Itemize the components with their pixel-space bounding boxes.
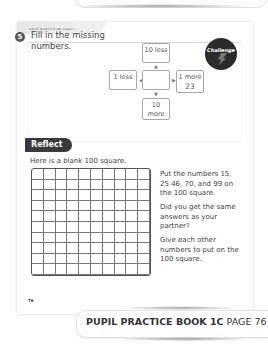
- box-center[interactable]: [142, 70, 170, 90]
- grid-cell[interactable]: [79, 169, 91, 180]
- grid-cell[interactable]: [44, 243, 56, 254]
- grid-cell[interactable]: [91, 211, 103, 222]
- grid-cell[interactable]: [103, 180, 115, 191]
- grid-cell[interactable]: [79, 254, 91, 265]
- grid-cell[interactable]: [44, 190, 56, 201]
- grid-cell[interactable]: [56, 201, 68, 212]
- grid-cell[interactable]: [91, 222, 103, 233]
- grid-cell[interactable]: [32, 169, 44, 180]
- grid-cell[interactable]: [138, 243, 150, 254]
- grid-cell[interactable]: [126, 254, 138, 265]
- grid-cell[interactable]: [138, 254, 150, 265]
- grid-cell[interactable]: [79, 222, 91, 233]
- grid-cell[interactable]: [126, 233, 138, 244]
- grid-cell[interactable]: [79, 233, 91, 244]
- grid-cell[interactable]: [44, 211, 56, 222]
- grid-cell[interactable]: [79, 211, 91, 222]
- grid-cell[interactable]: [32, 254, 44, 265]
- grid-cell[interactable]: [126, 169, 138, 180]
- grid-cell[interactable]: [79, 243, 91, 254]
- grid-cell[interactable]: [56, 169, 68, 180]
- grid-cell[interactable]: [67, 169, 79, 180]
- grid-cell[interactable]: [56, 190, 68, 201]
- grid-cell[interactable]: [91, 243, 103, 254]
- hundred-square-grid[interactable]: [31, 168, 151, 276]
- grid-cell[interactable]: [67, 233, 79, 244]
- grid-cell[interactable]: [91, 233, 103, 244]
- grid-cell[interactable]: [115, 211, 127, 222]
- grid-cell[interactable]: [32, 222, 44, 233]
- box-1-less[interactable]: 1 less: [109, 70, 137, 90]
- grid-cell[interactable]: [79, 201, 91, 212]
- grid-cell[interactable]: [56, 180, 68, 191]
- grid-cell[interactable]: [115, 190, 127, 201]
- grid-cell[interactable]: [138, 180, 150, 191]
- grid-cell[interactable]: [67, 243, 79, 254]
- grid-cell[interactable]: [115, 169, 127, 180]
- grid-cell[interactable]: [56, 211, 68, 222]
- grid-cell[interactable]: [32, 180, 44, 191]
- grid-cell[interactable]: [79, 264, 91, 275]
- grid-cell[interactable]: [91, 201, 103, 212]
- grid-cell[interactable]: [32, 264, 44, 275]
- grid-cell[interactable]: [138, 233, 150, 244]
- grid-cell[interactable]: [44, 264, 56, 275]
- grid-cell[interactable]: [115, 180, 127, 191]
- grid-cell[interactable]: [67, 180, 79, 191]
- grid-cell[interactable]: [44, 180, 56, 191]
- grid-cell[interactable]: [56, 264, 68, 275]
- grid-cell[interactable]: [67, 201, 79, 212]
- grid-cell[interactable]: [103, 211, 115, 222]
- grid-cell[interactable]: [115, 233, 127, 244]
- grid-cell[interactable]: [67, 190, 79, 201]
- grid-cell[interactable]: [79, 190, 91, 201]
- grid-cell[interactable]: [138, 201, 150, 212]
- grid-cell[interactable]: [32, 201, 44, 212]
- grid-cell[interactable]: [115, 222, 127, 233]
- grid-cell[interactable]: [138, 190, 150, 201]
- grid-cell[interactable]: [138, 169, 150, 180]
- grid-cell[interactable]: [103, 254, 115, 265]
- grid-cell[interactable]: [126, 264, 138, 275]
- grid-cell[interactable]: [44, 222, 56, 233]
- grid-cell[interactable]: [44, 201, 56, 212]
- grid-cell[interactable]: [103, 264, 115, 275]
- grid-cell[interactable]: [32, 211, 44, 222]
- grid-cell[interactable]: [67, 264, 79, 275]
- grid-cell[interactable]: [138, 222, 150, 233]
- grid-cell[interactable]: [44, 254, 56, 265]
- grid-cell[interactable]: [126, 180, 138, 191]
- grid-cell[interactable]: [56, 254, 68, 265]
- grid-cell[interactable]: [103, 169, 115, 180]
- grid-cell[interactable]: [67, 222, 79, 233]
- grid-cell[interactable]: [32, 233, 44, 244]
- grid-cell[interactable]: [56, 222, 68, 233]
- grid-cell[interactable]: [91, 180, 103, 191]
- grid-cell[interactable]: [115, 201, 127, 212]
- grid-cell[interactable]: [126, 222, 138, 233]
- grid-cell[interactable]: [32, 243, 44, 254]
- grid-cell[interactable]: [91, 190, 103, 201]
- grid-cell[interactable]: [91, 264, 103, 275]
- grid-cell[interactable]: [103, 222, 115, 233]
- grid-cell[interactable]: [91, 169, 103, 180]
- grid-cell[interactable]: [91, 254, 103, 265]
- grid-cell[interactable]: [126, 201, 138, 212]
- box-10-less[interactable]: 10 less: [142, 43, 170, 63]
- grid-cell[interactable]: [103, 190, 115, 201]
- grid-cell[interactable]: [103, 201, 115, 212]
- grid-cell[interactable]: [138, 211, 150, 222]
- grid-cell[interactable]: [56, 243, 68, 254]
- grid-cell[interactable]: [103, 233, 115, 244]
- grid-cell[interactable]: [56, 233, 68, 244]
- grid-cell[interactable]: [79, 180, 91, 191]
- grid-cell[interactable]: [32, 190, 44, 201]
- grid-cell[interactable]: [115, 254, 127, 265]
- box-10-more[interactable]: 10 more: [142, 98, 170, 120]
- grid-cell[interactable]: [126, 243, 138, 254]
- grid-cell[interactable]: [67, 211, 79, 222]
- box-1-more[interactable]: 1 more 23: [176, 70, 204, 93]
- grid-cell[interactable]: [44, 169, 56, 180]
- grid-cell[interactable]: [115, 264, 127, 275]
- grid-cell[interactable]: [103, 243, 115, 254]
